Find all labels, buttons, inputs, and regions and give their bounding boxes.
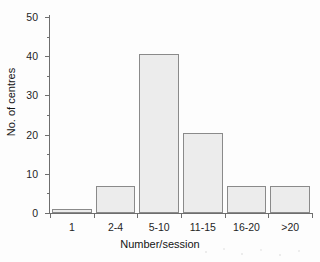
x-tick-label: 1: [50, 222, 94, 233]
x-tick: [50, 213, 51, 218]
x-tick-label: 16-20: [225, 222, 269, 233]
bar: [139, 54, 179, 213]
y-tick-label: 50: [26, 12, 38, 22]
x-tick-label: 5-10: [137, 222, 181, 233]
x-tick: [268, 213, 269, 218]
bar-chart-figure: 01020304050 12-45-1011-1516-20>20 Number…: [0, 0, 320, 262]
y-tick-label: 20: [26, 130, 38, 140]
x-tick-label: 11-15: [181, 222, 225, 233]
bar: [227, 186, 267, 213]
x-tick: [225, 213, 226, 218]
y-tick-label: 40: [26, 51, 38, 61]
x-tick-label: >20: [268, 222, 312, 233]
x-tick: [181, 213, 182, 218]
bar-series: [50, 17, 312, 213]
y-tick-label: 10: [26, 169, 38, 179]
bar: [270, 186, 310, 213]
y-axis-title: No. of centres: [5, 47, 17, 157]
bar: [52, 209, 92, 213]
scan-artifact: [198, 245, 318, 261]
y-tick-label: 0: [32, 208, 38, 218]
x-axis-line: [45, 213, 313, 214]
bar: [183, 133, 223, 213]
x-tick: [137, 213, 138, 218]
x-tick: [94, 213, 95, 218]
bar: [96, 186, 136, 213]
y-tick-label: 30: [26, 90, 38, 100]
x-tick-label: 2-4: [94, 222, 138, 233]
x-tick: [312, 213, 313, 218]
